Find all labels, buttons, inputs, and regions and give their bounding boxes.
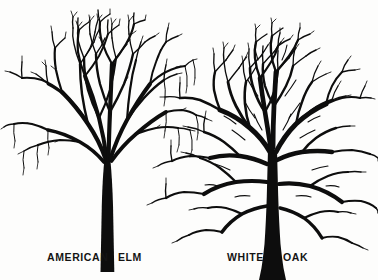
american-elm-label-part-1: AMERICAN [47,252,108,263]
tree-comparison-illustration: AMERICAN ELM WHITE OAK [0,0,378,280]
white-oak-label-part-1: WHITE [227,252,264,263]
tree-silhouettes-canvas [0,0,378,280]
american-elm-label-part-2: ELM [118,252,142,263]
white-oak-label-part-2: OAK [283,252,308,263]
